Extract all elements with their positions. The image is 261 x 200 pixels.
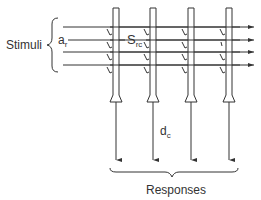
input-label: ar	[58, 33, 68, 49]
synapse-marks	[107, 29, 225, 73]
stimulus-lines	[63, 27, 254, 65]
output-columns	[110, 8, 235, 160]
responses-label: Responses	[146, 183, 206, 197]
stimuli-brace	[47, 18, 58, 72]
responses-brace	[110, 168, 238, 177]
column-2	[147, 8, 159, 160]
output-label: dc	[160, 124, 171, 140]
column-4	[223, 8, 235, 160]
synapse-label: Src	[127, 32, 142, 49]
crossbar-diagram: Stimuli ar Src dc Responses	[0, 0, 261, 200]
column-3	[185, 8, 197, 160]
stimuli-label: Stimuli	[6, 38, 42, 52]
column-1	[110, 8, 122, 160]
